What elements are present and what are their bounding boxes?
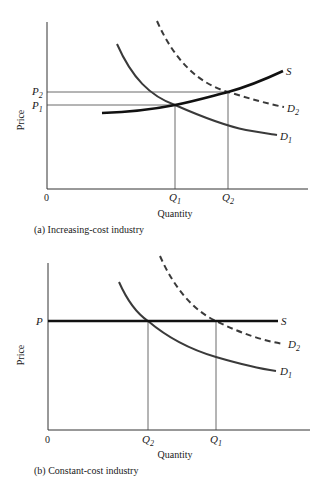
panel-constant-cost: S D2 D1 P 0 Q2 Q1 Quantity Price (b) Con… bbox=[15, 256, 310, 477]
origin-label: 0 bbox=[44, 192, 49, 203]
x-axis-label: Quantity bbox=[158, 449, 193, 460]
label-q1: Q1 bbox=[210, 433, 222, 448]
label-p2: P2 bbox=[31, 85, 43, 100]
label-q1: Q1 bbox=[169, 191, 181, 206]
label-s: S bbox=[281, 315, 287, 327]
origin-label: 0 bbox=[45, 434, 50, 445]
label-d1: D1 bbox=[279, 365, 292, 380]
supply-demand-diagram: S D2 D1 P2 P1 0 Q1 Q2 Quantity Price (a)… bbox=[0, 0, 327, 483]
label-q2: Q2 bbox=[222, 191, 234, 206]
demand-curve-d1 bbox=[117, 44, 277, 135]
caption-b: (b) Constant-cost industry bbox=[34, 465, 138, 477]
label-s: S bbox=[286, 65, 292, 77]
label-q2: Q2 bbox=[142, 433, 154, 448]
y-axis-label: Price bbox=[15, 109, 26, 130]
caption-a: (a) Increasing-cost industry bbox=[34, 224, 144, 236]
x-axis-label: Quantity bbox=[158, 208, 193, 219]
demand-curve-d2 bbox=[160, 256, 283, 344]
label-d2: D2 bbox=[287, 338, 300, 353]
demand-curve-d1 bbox=[119, 282, 276, 371]
label-p: P bbox=[35, 315, 43, 327]
label-d2: D2 bbox=[286, 102, 299, 117]
label-d1: D1 bbox=[279, 130, 292, 145]
label-p1: P1 bbox=[31, 99, 43, 114]
panel-increasing-cost: S D2 D1 P2 P1 0 Q1 Q2 Quantity Price (a)… bbox=[15, 21, 308, 236]
y-axis-label: Price bbox=[15, 344, 26, 365]
